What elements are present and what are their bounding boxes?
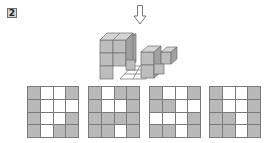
- shaded-cell: [127, 113, 139, 125]
- shaded-cell: [28, 113, 40, 125]
- empty-cell: [115, 125, 127, 137]
- shaded-cell: [66, 125, 78, 137]
- shaded-cell: [150, 87, 162, 99]
- shaded-cell: [89, 113, 101, 125]
- empty-cell: [41, 113, 53, 125]
- empty-cell: [236, 113, 248, 125]
- empty-cell: [236, 100, 248, 112]
- empty-cell: [176, 125, 188, 137]
- shaded-cell: [28, 125, 40, 137]
- shaded-cell: [28, 87, 40, 99]
- empty-cell: [102, 100, 114, 112]
- shaded-cell: [54, 125, 66, 137]
- shaded-cell: [89, 100, 101, 112]
- shaded-cell: [150, 125, 162, 137]
- empty-cell: [236, 125, 248, 137]
- empty-cell: [115, 100, 127, 112]
- shaded-cell: [188, 113, 200, 125]
- empty-cell: [223, 87, 235, 99]
- empty-cell: [150, 113, 162, 125]
- shaded-cell: [115, 113, 127, 125]
- shaded-cell: [210, 87, 222, 99]
- down-arrow-icon: [133, 5, 147, 25]
- empty-cell: [223, 100, 235, 112]
- empty-cell: [54, 113, 66, 125]
- empty-cell: [41, 125, 53, 137]
- empty-cell: [176, 87, 188, 99]
- empty-cell: [41, 100, 53, 112]
- answer-option-2[interactable]: [88, 86, 140, 138]
- empty-cell: [66, 100, 78, 112]
- shaded-cell: [66, 87, 78, 99]
- shaded-cell: [223, 125, 235, 137]
- shaded-cell: [127, 100, 139, 112]
- empty-cell: [176, 113, 188, 125]
- shaded-cell: [102, 113, 114, 125]
- shaded-cell: [150, 100, 162, 112]
- cube-structure-figure: [98, 30, 180, 80]
- shaded-cell: [223, 113, 235, 125]
- shaded-cell: [248, 87, 260, 99]
- shaded-cell: [127, 87, 139, 99]
- empty-cell: [54, 87, 66, 99]
- shaded-cell: [89, 125, 101, 137]
- shaded-cell: [163, 100, 175, 112]
- shaded-cell: [102, 125, 114, 137]
- shaded-cell: [210, 125, 222, 137]
- empty-cell: [163, 87, 175, 99]
- empty-cell: [188, 100, 200, 112]
- empty-cell: [236, 87, 248, 99]
- shaded-cell: [127, 125, 139, 137]
- shaded-cell: [188, 87, 200, 99]
- shaded-cell: [210, 100, 222, 112]
- shaded-cell: [28, 100, 40, 112]
- shaded-cell: [248, 113, 260, 125]
- shaded-cell: [210, 113, 222, 125]
- shaded-cell: [188, 125, 200, 137]
- empty-cell: [54, 100, 66, 112]
- question-number-badge: 2: [7, 8, 17, 18]
- shaded-cell: [115, 87, 127, 99]
- empty-cell: [176, 100, 188, 112]
- answer-option-4[interactable]: [209, 86, 261, 138]
- shaded-cell: [248, 100, 260, 112]
- answer-option-3[interactable]: [149, 86, 201, 138]
- empty-cell: [163, 113, 175, 125]
- shaded-cell: [89, 87, 101, 99]
- shaded-cell: [163, 125, 175, 137]
- shaded-cell: [66, 113, 78, 125]
- empty-cell: [41, 87, 53, 99]
- empty-cell: [102, 87, 114, 99]
- answer-option-1[interactable]: [27, 86, 79, 138]
- shaded-cell: [248, 125, 260, 137]
